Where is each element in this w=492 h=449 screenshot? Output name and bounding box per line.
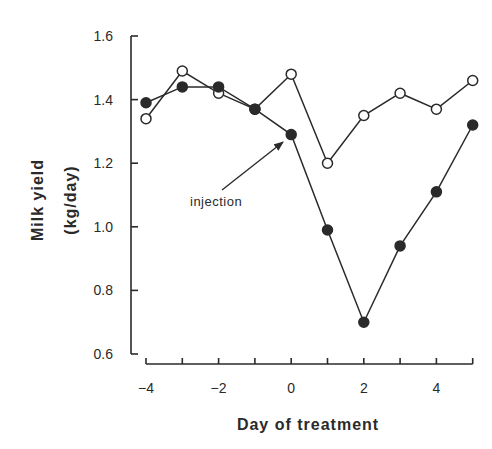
injection-label: injection [190, 194, 242, 209]
open-circle-marker [177, 66, 187, 76]
open-circle-marker [286, 69, 296, 79]
x-tick-label: −4 [138, 380, 154, 396]
x-tick-label: 2 [360, 380, 368, 396]
filled-circle-marker [431, 187, 441, 197]
y-tick-label: 1.6 [94, 28, 114, 44]
open-circle-marker [395, 88, 405, 98]
x-axis: −4−2024 [138, 358, 473, 396]
open-circle-marker [323, 158, 333, 168]
filled-circle-marker [286, 130, 296, 140]
filled-circle-marker [250, 104, 260, 114]
filled-circle-marker [395, 241, 405, 251]
x-axis-title: Day of treatment [237, 416, 379, 433]
filled-circle-marker [177, 82, 187, 92]
y-tick-label: 1.4 [94, 92, 114, 108]
y-tick-label: 0.6 [94, 346, 114, 362]
filled-circle-marker [359, 317, 369, 327]
milk-yield-chart: 0.60.81.01.21.41.6 −4−2024 injection Day… [0, 0, 492, 449]
open-circle-marker [141, 114, 151, 124]
series-line [146, 71, 473, 163]
x-tick-label: −2 [211, 380, 227, 396]
filled-circle-marker [468, 120, 478, 130]
filled-circle-marker [323, 225, 333, 235]
filled-circle-marker [214, 82, 224, 92]
x-tick-label: 0 [287, 380, 295, 396]
y-tick-label: 1.2 [94, 155, 114, 171]
open-circle-marker [431, 104, 441, 114]
y-tick-label: 1.0 [94, 219, 114, 235]
y-axis-title: Milk yield (kg/day) [29, 159, 79, 241]
x-tick-label: 4 [433, 380, 441, 396]
annotation: injection [190, 142, 283, 209]
injection-arrow [222, 142, 283, 190]
y-axis: 0.60.81.01.21.41.6 [94, 28, 138, 362]
y-tick-label: 0.8 [94, 282, 114, 298]
open-circle-marker [359, 111, 369, 121]
y-axis-title-line-2: (kg/day) [62, 165, 79, 234]
y-axis-title-line-1: Milk yield [29, 159, 46, 241]
filled-circle-marker [141, 98, 151, 108]
open-circle-marker [468, 76, 478, 86]
